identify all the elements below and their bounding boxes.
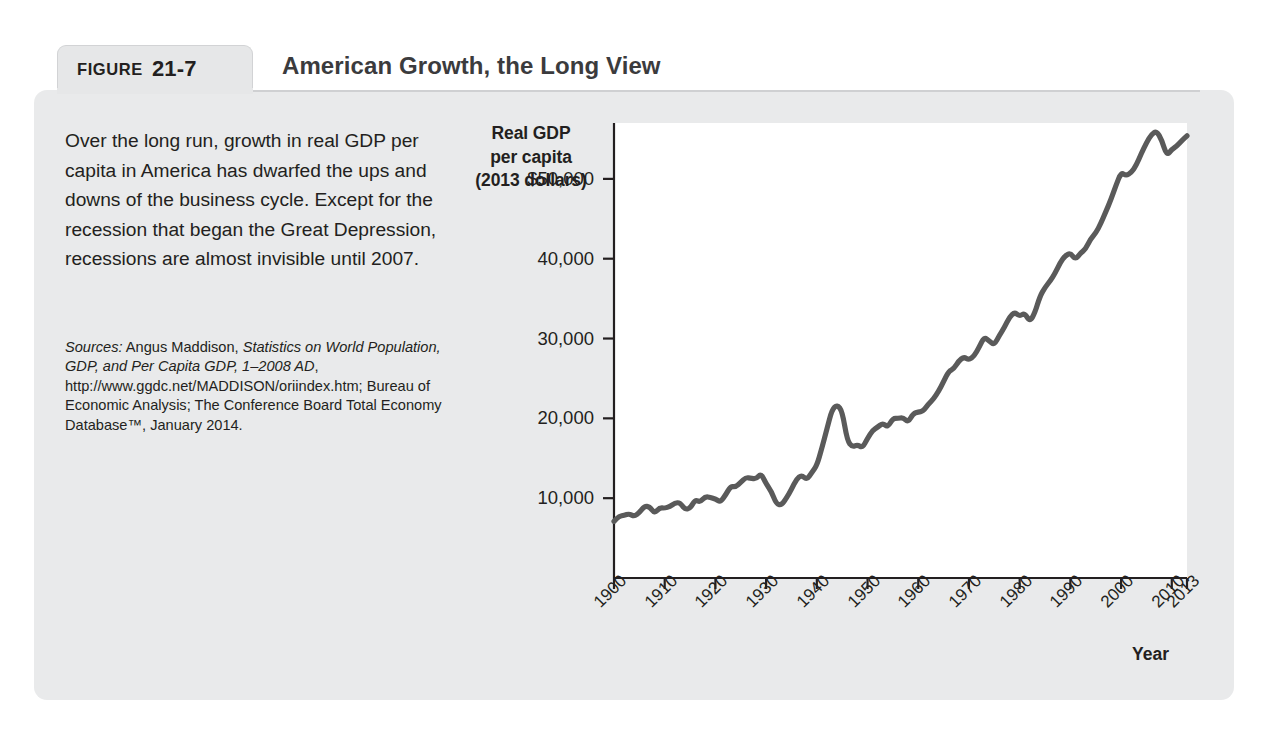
y-axis-title-line-1: Real GDP bbox=[455, 122, 607, 146]
figure-caption: Over the long run, growth in real GDP pe… bbox=[65, 126, 455, 274]
y-axis-tick-label: $50,000 bbox=[474, 168, 594, 190]
title-divider bbox=[253, 90, 1200, 92]
figure-page: FIGURE 21-7 American Growth, the Long Vi… bbox=[0, 0, 1271, 747]
figure-sources: Sources: Angus Maddison, Statistics on W… bbox=[65, 338, 457, 435]
y-axis-tick-label: 40,000 bbox=[474, 248, 594, 270]
x-axis-title: Year bbox=[1132, 644, 1169, 665]
sources-author: Angus Maddison, bbox=[123, 339, 243, 355]
figure-title: American Growth, the Long View bbox=[282, 52, 661, 80]
y-axis-tick-label: 30,000 bbox=[474, 328, 594, 350]
figure-tab: FIGURE 21-7 bbox=[57, 45, 253, 92]
y-axis-tick-label: 20,000 bbox=[474, 407, 594, 429]
tab-notch bbox=[57, 88, 253, 94]
sources-label: Sources: bbox=[65, 339, 123, 355]
figure-number: 21-7 bbox=[152, 56, 197, 82]
figure-tab-word: FIGURE bbox=[77, 60, 143, 79]
y-axis-title-line-2: per capita bbox=[455, 146, 607, 170]
y-axis-tick-label: 10,000 bbox=[474, 487, 594, 509]
